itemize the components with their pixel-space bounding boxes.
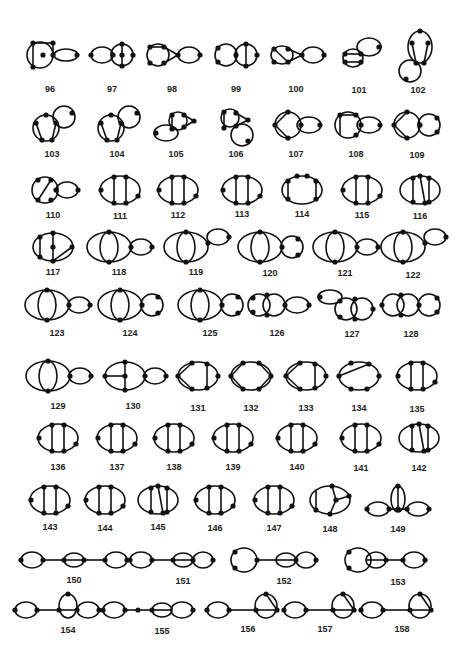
vertex-dot: [417, 591, 422, 596]
vertex-dot: [147, 44, 152, 49]
vertex-dot: [332, 229, 337, 234]
vertex-dot: [257, 229, 262, 234]
vertex-dot: [56, 607, 61, 612]
vertex-dot: [317, 294, 322, 299]
vertex-dot: [408, 386, 413, 391]
vertex-dot: [313, 557, 318, 562]
vertex-dot: [417, 173, 422, 178]
vertex-dot: [156, 187, 161, 192]
vertex-dot: [434, 295, 439, 300]
vertex-dot: [253, 607, 258, 612]
vertex-dot: [233, 174, 238, 179]
vertex-dot: [206, 510, 211, 515]
vertex-dot: [122, 387, 127, 392]
vertex-dot: [224, 422, 229, 427]
vertex-dot: [417, 28, 422, 33]
vertex-dot: [264, 312, 269, 317]
graph-158-diagram: [342, 570, 462, 650]
vertex-dot: [74, 607, 79, 612]
vertex-dot: [407, 607, 412, 612]
vertex-dot: [197, 317, 202, 322]
vertex-dot: [400, 229, 405, 234]
vertex-dot: [45, 358, 50, 363]
vertex-dot: [139, 302, 144, 307]
vertex-dot: [210, 557, 215, 562]
vertex-dot: [383, 557, 388, 562]
vertex-dot: [400, 259, 405, 264]
graph-catalogue: 9697989910010110210310410510610710810911…: [0, 0, 468, 662]
vertex-dot: [271, 46, 276, 51]
vertex-dot: [215, 45, 220, 50]
vertex-dot: [264, 292, 269, 297]
vertex-dot: [398, 292, 403, 297]
vertex-dot: [428, 607, 433, 612]
vertex-dot: [339, 435, 344, 440]
vertex-dot: [33, 120, 38, 125]
graph-label-154: 154: [60, 625, 75, 635]
vertex-dot: [272, 122, 277, 127]
vertex-dot: [410, 175, 415, 180]
vertex-dot: [183, 229, 188, 234]
vertex-dot: [413, 60, 418, 65]
vertex-dot: [391, 122, 396, 127]
vertex-dot: [353, 174, 358, 179]
vertex-dot: [282, 302, 287, 307]
vertex-dot: [108, 112, 113, 117]
vertex-dot: [337, 112, 342, 117]
vertex-dot: [83, 497, 88, 502]
vertex-dot: [206, 484, 211, 489]
vertex-dot: [169, 174, 174, 179]
vertex-dot: [240, 360, 245, 365]
vertex-dot: [294, 173, 299, 178]
vertex-dot: [285, 46, 290, 51]
vertex-dot: [148, 485, 153, 490]
vertex-dot: [250, 295, 255, 300]
vertex-dot: [117, 317, 122, 322]
vertex-dot: [98, 120, 103, 125]
graph-102-diagram: [358, 15, 468, 95]
vertex-dot: [221, 109, 226, 114]
vertex-dot: [224, 448, 229, 453]
vertex-dot: [102, 373, 107, 378]
vertex-dot: [220, 187, 225, 192]
vertex-dot: [169, 200, 174, 205]
vertex-dot: [330, 607, 335, 612]
vertex-dot: [404, 109, 409, 114]
vertex-dot: [285, 59, 290, 64]
graph-label-155: 155: [154, 626, 169, 636]
vertex-dot: [102, 557, 107, 562]
vertex-dot: [149, 557, 154, 562]
vertex-dot: [279, 244, 284, 249]
vertex-dot: [65, 591, 70, 596]
vertex-dot: [232, 549, 237, 554]
vertex-dot: [228, 373, 233, 378]
vertex-dot: [108, 448, 113, 453]
vertex-dot: [425, 40, 430, 45]
vertex-dot: [288, 448, 293, 453]
vertex-dot: [193, 497, 198, 502]
graph-label-158: 158: [394, 624, 409, 634]
vertex-dot: [358, 607, 363, 612]
vertex-dot: [37, 234, 42, 239]
vertex-dot: [152, 435, 157, 440]
vertex-dot: [98, 187, 103, 192]
vertex-dot: [443, 234, 448, 239]
vertex-dot: [106, 229, 111, 234]
vertex-dot: [293, 557, 298, 562]
vertex-dot: [111, 174, 116, 179]
vertex-dot: [44, 287, 49, 292]
vertex-dot: [303, 607, 308, 612]
vertex-dot: [254, 557, 259, 562]
vertex-dot: [398, 312, 403, 317]
vertex-dot: [226, 607, 231, 612]
vertex-dot: [81, 557, 86, 562]
vertex-dot: [342, 59, 347, 64]
vertex-dot: [285, 178, 290, 183]
vertex-dot: [127, 557, 132, 562]
vertex-dot: [221, 125, 226, 130]
vertex-dot: [421, 60, 426, 65]
vertex-dot: [108, 422, 113, 427]
vertex-dot: [342, 51, 347, 56]
vertex-dot: [271, 59, 276, 64]
vertex-dot: [340, 187, 345, 192]
